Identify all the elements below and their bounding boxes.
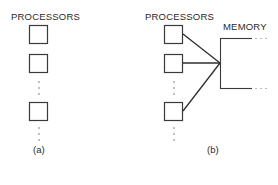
panel-a-title: PROCESSORS — [11, 11, 80, 22]
panel-a-caption: (a) — [33, 144, 45, 155]
memory-ellipsis-dots — [255, 38, 266, 89]
processor-box-1 — [30, 26, 48, 44]
panel-b-caption: (b) — [207, 144, 219, 155]
memory-label: MEMORY — [223, 21, 267, 32]
processor-box-3 — [165, 103, 183, 121]
interconnect-lines — [183, 34, 220, 111]
panel-a-processors — [30, 26, 48, 121]
panel-b-title: PROCESSORS — [145, 11, 214, 22]
panel-b-processors — [165, 26, 183, 121]
processor-box-3 — [30, 103, 48, 121]
processor-box-1 — [165, 26, 183, 44]
memory-bus — [220, 38, 252, 89]
processor-box-2 — [30, 55, 48, 73]
processor-box-2 — [165, 55, 183, 73]
